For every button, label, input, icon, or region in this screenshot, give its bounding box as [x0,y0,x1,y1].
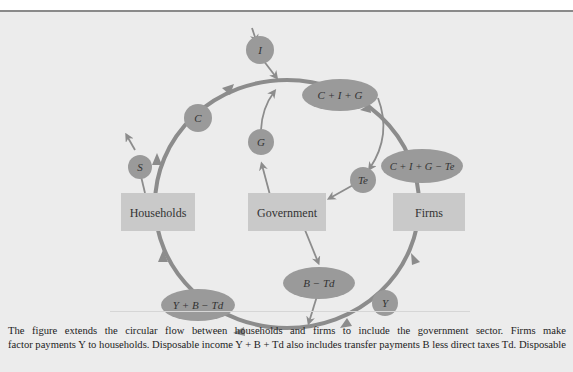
caption-line-2: factor payments Y to households. Disposa… [8,338,566,352]
government-node: Government [248,193,326,231]
government-spending-bubble: G [248,129,274,155]
svg-text:Te: Te [358,174,368,186]
households-node: Households [121,193,195,231]
firms-node: Firms [393,193,465,231]
svg-text:Y + B − Td: Y + B − Td [173,299,224,311]
investment-bubble: I [246,36,274,64]
indirect-taxes-bubble: Te [350,167,376,193]
svg-text:Firms: Firms [415,206,443,220]
svg-text:C: C [194,112,202,124]
svg-text:C + I + G − Te: C + I + G − Te [390,161,455,172]
saving-bubble: S [128,155,152,179]
caption-line-1: The figure extends the circular flow bet… [8,324,566,338]
svg-text:C + I + G: C + I + G [318,89,363,101]
svg-text:Government: Government [257,206,318,220]
net-expenditure-bubble: C + I + G − Te [381,149,463,183]
total-expenditure-bubble: C + I + G [302,79,378,111]
circular-flow-diagram: Households Government Firms I C S G C + … [0,0,573,372]
svg-text:G: G [257,136,265,148]
figure-caption: The figure extends the circular flow bet… [8,324,566,352]
factor-payments-bubble: Y [372,290,398,316]
consumption-bubble: C [184,104,212,132]
caption-divider [110,311,470,312]
svg-text:Households: Households [130,206,187,220]
transfers-bubble: B − Td [283,267,355,299]
svg-text:S: S [137,161,143,173]
disposable-income-bubble: Y + B − Td [161,289,235,321]
svg-text:B − Td: B − Td [303,277,335,289]
